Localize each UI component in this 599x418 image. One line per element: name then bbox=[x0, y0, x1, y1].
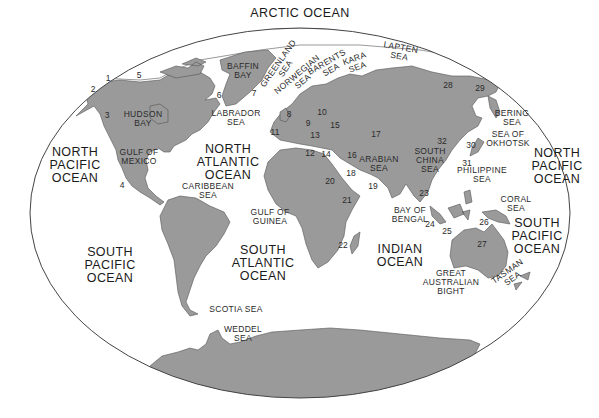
ocean-label-north-pacific-west: NORTHPACIFICOCEAN bbox=[49, 146, 100, 185]
map-number-23: 23 bbox=[419, 189, 428, 198]
map-number-14: 14 bbox=[321, 150, 330, 159]
map-number-12: 12 bbox=[305, 149, 314, 158]
map-number-25: 25 bbox=[442, 227, 451, 236]
map-number-11: 11 bbox=[271, 128, 280, 137]
map-number-1: 1 bbox=[106, 74, 111, 83]
ocean-label-south-atlantic: SOUTHATLANTICOCEAN bbox=[232, 244, 295, 283]
map-number-29: 29 bbox=[475, 84, 484, 93]
map-number-28: 28 bbox=[443, 81, 452, 90]
map-number-10: 10 bbox=[317, 108, 326, 117]
sea-label-weddel-sea: WEDDELSEA bbox=[224, 325, 262, 343]
map-number-32: 32 bbox=[437, 137, 446, 146]
map-number-7: 7 bbox=[252, 89, 257, 98]
map-number-4: 4 bbox=[120, 181, 125, 190]
ocean-label-north-pacific-east: NORTHPACIFICOCEAN bbox=[531, 147, 582, 186]
sea-label-gulf-of-guinea: GULF OFGUINEA bbox=[251, 208, 290, 226]
map-number-30: 30 bbox=[466, 141, 475, 150]
sea-label-philippine-sea: PHILIPPINESEA bbox=[457, 166, 507, 184]
map-number-13: 13 bbox=[310, 131, 319, 140]
ocean-label-arctic: ARCTIC OCEAN bbox=[250, 7, 349, 20]
sea-label-arabian-sea: ARABIANSEA bbox=[359, 155, 398, 173]
map-number-15: 15 bbox=[330, 121, 339, 130]
sea-label-sea-of-okhotsk: SEA OFOKHOTSK bbox=[486, 130, 530, 148]
map-number-16: 16 bbox=[347, 151, 356, 160]
sea-label-great-australian-bight: GREATAUSTRALIANBIGHT bbox=[423, 269, 479, 296]
map-number-27: 27 bbox=[477, 240, 486, 249]
sea-label-coral-sea: CORALSEA bbox=[501, 195, 532, 213]
ocean-label-north-atlantic: NORTHATLANTICOCEAN bbox=[197, 143, 260, 182]
sea-label-hudson-bay: HUDSONBAY bbox=[124, 110, 163, 128]
map-number-2: 2 bbox=[91, 85, 96, 94]
map-number-26: 26 bbox=[479, 218, 488, 227]
ocean-label-south-pacific-west: SOUTHPACIFICOCEAN bbox=[84, 246, 135, 285]
sea-label-gulf-of-mexico: GULF OFMEXICO bbox=[120, 148, 159, 166]
map-number-24: 24 bbox=[425, 220, 434, 229]
map-number-20: 20 bbox=[325, 177, 334, 186]
ocean-label-indian: INDIANOCEAN bbox=[377, 243, 423, 269]
map-number-21: 21 bbox=[342, 196, 351, 205]
sea-label-labrador-sea: LABRADORSEA bbox=[211, 109, 260, 127]
map-number-18: 18 bbox=[346, 169, 355, 178]
sea-label-bering-sea: BERINGSEA bbox=[495, 109, 529, 127]
map-number-6: 6 bbox=[217, 91, 222, 100]
sea-label-baffin-bay: BAFFINBAY bbox=[227, 62, 259, 80]
map-number-31: 31 bbox=[462, 159, 471, 168]
sea-label-south-china-sea: SOUTHCHINASEA bbox=[414, 147, 445, 174]
sea-label-scotia-sea: SCOTIA SEA bbox=[209, 305, 263, 314]
sea-label-caribbean-sea: CARIBBEANSEA bbox=[182, 182, 234, 200]
map-number-5: 5 bbox=[137, 71, 142, 80]
sea-label-bay-of-bengal: BAY OFBENGAL bbox=[392, 206, 428, 224]
map-number-3: 3 bbox=[105, 111, 110, 120]
map-number-22: 22 bbox=[338, 241, 347, 250]
ocean-label-south-pacific-east: SOUTHPACIFICOCEAN bbox=[511, 217, 562, 256]
map-number-9: 9 bbox=[306, 119, 311, 128]
map-number-8: 8 bbox=[287, 110, 292, 119]
map-number-19: 19 bbox=[368, 182, 377, 191]
map-number-17: 17 bbox=[371, 130, 380, 139]
